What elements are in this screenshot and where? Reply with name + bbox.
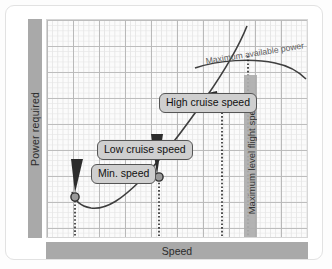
callout-min-speed: Min. speed bbox=[91, 164, 156, 184]
marker-low-cruise-speed bbox=[155, 173, 163, 181]
x-axis-label: Speed bbox=[162, 245, 192, 257]
figure: Power required bbox=[0, 0, 332, 269]
marker-min-speed bbox=[71, 193, 79, 201]
callout-low-cruise-speed: Low cruise speed bbox=[97, 140, 193, 160]
tail-min-speed bbox=[71, 159, 83, 193]
callout-high-cruise-speed: High cruise speed bbox=[159, 93, 257, 113]
y-axis-title-band: Power required bbox=[28, 19, 42, 238]
x-axis-title-band: Speed bbox=[46, 242, 308, 259]
figure-frame: Power required bbox=[5, 5, 323, 260]
max-level-flight-speed-label: Maximum level flight speed bbox=[245, 99, 256, 214]
y-axis-label: Power required bbox=[29, 91, 41, 165]
plot-area: Maximum level flight speed Maximum avail… bbox=[46, 19, 308, 238]
